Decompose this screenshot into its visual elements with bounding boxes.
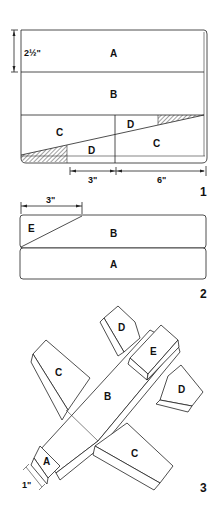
diagonal-cut <box>21 115 204 155</box>
part-label-c-upper: C <box>55 367 62 378</box>
arrow-right-icon <box>200 170 205 173</box>
part-label-b: B <box>104 391 111 402</box>
part-label-e: E <box>28 223 35 234</box>
part-label-c-left: C <box>56 127 63 138</box>
part-label-b: B <box>110 89 117 100</box>
dim-label-6in: 6" <box>157 175 166 185</box>
figure-number-3: 3 <box>200 481 207 495</box>
arrow-down-icon <box>13 66 16 71</box>
part-label-d-right: D <box>178 384 185 395</box>
part-label-b: B <box>110 228 117 239</box>
arrow-right-icon <box>110 170 115 173</box>
arrow-up-icon <box>13 31 16 36</box>
dim-label-3in: 3" <box>88 175 97 185</box>
figure-2: 3" E B A 2 <box>20 195 207 301</box>
part-label-a: A <box>110 48 117 59</box>
dim-label-e-width: 3" <box>46 195 55 205</box>
part-label-d-bottom: D <box>88 145 95 156</box>
diagram-canvas: 2½" A B C D D C 3" 6" 1 3" E <box>0 0 221 514</box>
figure-number-2: 2 <box>200 287 207 301</box>
figure-number-1: 1 <box>200 185 207 199</box>
part-label-d-top: D <box>127 119 134 130</box>
arrow-left-icon <box>71 170 76 173</box>
dim-tick-bottom <box>39 484 45 490</box>
figure-3: 1" D E C B D A C 3 <box>22 306 207 495</box>
dim-label-nose: 1" <box>22 480 31 490</box>
arrow-right-icon <box>76 205 81 208</box>
dim-tick-top <box>23 464 29 470</box>
part-label-d-upper: D <box>118 322 125 333</box>
arrow-left-icon <box>117 170 122 173</box>
dim-label-height: 2½" <box>24 48 41 58</box>
arrow-left-icon <box>22 205 27 208</box>
part-label-a: A <box>43 456 50 467</box>
figure-1: 2½" A B C D D C 3" 6" 1 <box>11 30 207 199</box>
part-label-e: E <box>150 346 157 357</box>
part-label-a: A <box>110 259 117 270</box>
part-label-c-lower: C <box>131 448 138 459</box>
part-label-c-right: C <box>153 138 160 149</box>
